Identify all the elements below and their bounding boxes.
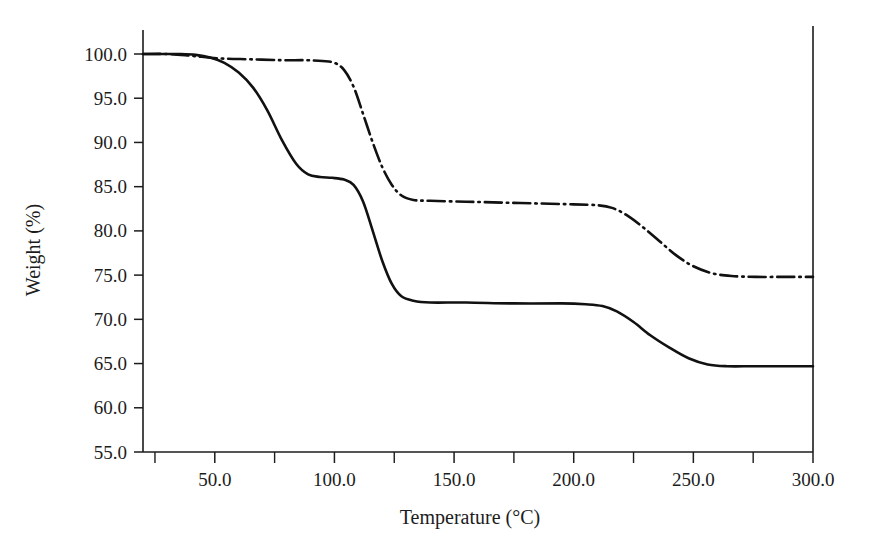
x-tick-label: 250.0 [672, 469, 715, 490]
x-tick-label: 100.0 [313, 469, 356, 490]
y-tick-label: 65.0 [94, 353, 127, 374]
y-axis-title: Weight (%) [22, 204, 45, 296]
x-axis-title: Temperature (°C) [400, 506, 540, 529]
x-tick-label: 200.0 [552, 469, 595, 490]
series-solid-curve [143, 54, 813, 366]
data-series-group [143, 54, 813, 366]
x-tick-label: 150.0 [433, 469, 476, 490]
y-tick-label: 95.0 [94, 88, 127, 109]
x-tick-label: 50.0 [198, 469, 231, 490]
y-tick-label: 100.0 [84, 44, 127, 65]
series-dash-dot-curve [143, 54, 813, 277]
y-tick-label: 90.0 [94, 132, 127, 153]
y-tick-label: 60.0 [94, 397, 127, 418]
x-tick-label: 300.0 [792, 469, 835, 490]
plot-spines [143, 26, 813, 452]
y-tick-label: 70.0 [94, 309, 127, 330]
y-tick-label: 75.0 [94, 265, 127, 286]
y-tick-label: 80.0 [94, 220, 127, 241]
y-tick-label: 55.0 [94, 442, 127, 463]
x-axis-tick-labels: 50.0100.0150.0200.0250.0300.0 [198, 469, 834, 490]
y-axis-tick-labels: 55.060.065.070.075.080.085.090.095.0100.… [84, 44, 127, 463]
tga-chart-figure: 55.060.065.070.075.080.085.090.095.0100.… [0, 0, 878, 543]
y-axis-ticks [134, 54, 143, 452]
chart-canvas: 55.060.065.070.075.080.085.090.095.0100.… [0, 0, 878, 543]
y-tick-label: 85.0 [94, 176, 127, 197]
